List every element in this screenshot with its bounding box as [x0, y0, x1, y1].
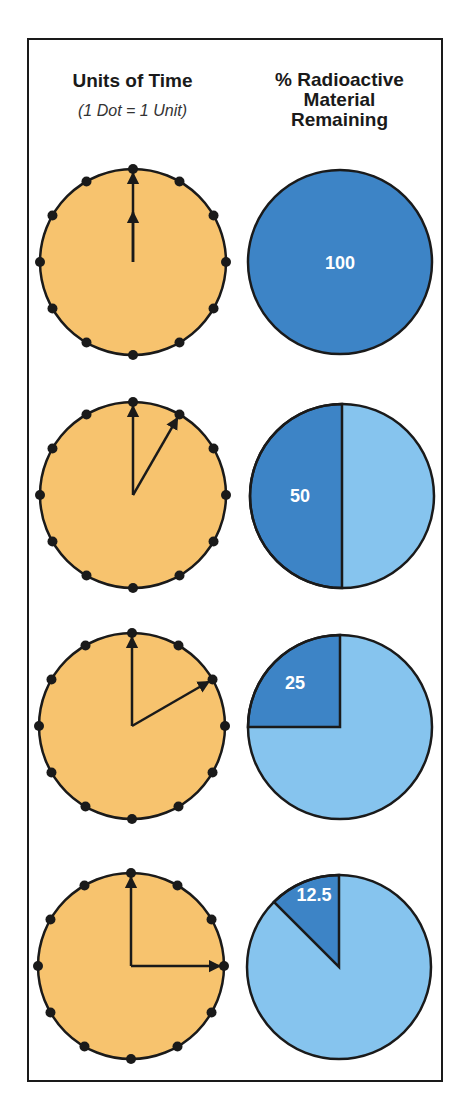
time-unit-dot	[46, 675, 56, 685]
half-life-diagram: 100502512.5	[0, 0, 468, 1114]
time-unit-dot	[128, 397, 138, 407]
time-unit-dot	[173, 1042, 183, 1052]
time-unit-dot	[209, 537, 219, 547]
time-unit-dot	[175, 409, 185, 419]
time-unit-dot	[33, 961, 43, 971]
remaining-pie: 100	[248, 170, 432, 354]
time-unit-dot	[207, 1008, 217, 1018]
time-unit-dot	[45, 915, 55, 925]
time-unit-dot	[47, 537, 57, 547]
time-unit-dot	[209, 211, 219, 221]
time-unit-dot	[82, 176, 92, 186]
time-unit-dot	[82, 338, 92, 348]
time-unit-dot	[45, 1008, 55, 1018]
row-0: 100	[35, 164, 432, 360]
time-unit-dot	[174, 640, 184, 650]
time-unit-dot	[221, 490, 231, 500]
time-unit-dot	[82, 409, 92, 419]
remaining-pie: 50	[250, 404, 434, 588]
time-clock	[35, 164, 231, 360]
time-unit-dot	[35, 257, 45, 267]
remaining-pie: 25	[248, 635, 432, 819]
time-unit-dot	[209, 444, 219, 454]
time-unit-dot	[221, 257, 231, 267]
time-unit-dot	[127, 628, 137, 638]
time-unit-dot	[128, 164, 138, 174]
time-clock	[34, 628, 230, 824]
time-unit-dot	[46, 768, 56, 778]
time-clock	[33, 868, 229, 1064]
time-unit-dot	[175, 176, 185, 186]
time-unit-dot	[208, 768, 218, 778]
time-unit-dot	[47, 304, 57, 314]
time-unit-dot	[208, 675, 218, 685]
time-unit-dot	[209, 304, 219, 314]
time-unit-dot	[207, 915, 217, 925]
time-unit-dot	[126, 868, 136, 878]
time-unit-dot	[220, 721, 230, 731]
time-unit-dot	[81, 802, 91, 812]
time-unit-dot	[47, 444, 57, 454]
time-unit-dot	[127, 814, 137, 824]
time-unit-dot	[80, 1042, 90, 1052]
time-unit-dot	[126, 1054, 136, 1064]
time-unit-dot	[175, 571, 185, 581]
time-unit-dot	[174, 802, 184, 812]
percent-remaining-label: 50	[290, 486, 310, 506]
row-2: 25	[34, 628, 432, 824]
row-3: 12.5	[33, 868, 431, 1064]
time-unit-dot	[81, 640, 91, 650]
time-unit-dot	[80, 880, 90, 890]
time-unit-dot	[219, 961, 229, 971]
time-unit-dot	[35, 490, 45, 500]
time-unit-dot	[47, 211, 57, 221]
time-clock	[35, 397, 231, 593]
time-unit-dot	[128, 350, 138, 360]
row-1: 50	[35, 397, 434, 593]
percent-remaining-label: 100	[325, 253, 355, 273]
time-unit-dot	[128, 583, 138, 593]
time-unit-dot	[175, 338, 185, 348]
time-unit-dot	[173, 880, 183, 890]
time-unit-dot	[34, 721, 44, 731]
percent-remaining-label: 25	[285, 673, 305, 693]
percent-remaining-label: 12.5	[296, 885, 331, 905]
time-unit-dot	[82, 571, 92, 581]
remaining-pie: 12.5	[247, 875, 431, 1059]
